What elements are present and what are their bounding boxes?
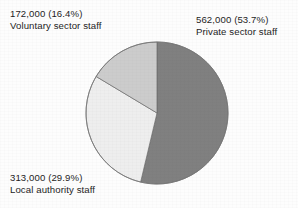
slice-label-private-value: 562,000 (53.7%) <box>196 14 277 26</box>
slice-label-voluntary-value: 172,000 (16.4%) <box>10 8 102 20</box>
slice-label-local-value: 313,000 (29.9%) <box>10 172 95 184</box>
slice-label-voluntary-name: Voluntary sector staff <box>10 20 102 32</box>
slice-label-private-sector: 562,000 (53.7%) Private sector staff <box>196 14 277 37</box>
slice-label-local-name: Local authority staff <box>10 184 95 196</box>
pie-chart-figure: 172,000 (16.4%) Voluntary sector staff 5… <box>0 0 298 208</box>
pie-chart <box>85 41 229 185</box>
slice-label-local-authority: 313,000 (29.9%) Local authority staff <box>10 172 95 195</box>
slice-label-voluntary-sector: 172,000 (16.4%) Voluntary sector staff <box>10 8 102 31</box>
pie-slice-group <box>86 42 228 184</box>
pie-chart-svg <box>85 41 229 185</box>
slice-label-private-name: Private sector staff <box>196 26 277 38</box>
